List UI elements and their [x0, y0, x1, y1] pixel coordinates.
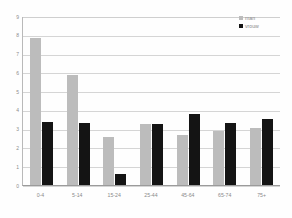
bar-group-25-44: [133, 17, 170, 185]
legend-label: vrouw: [245, 23, 259, 29]
bar-vrouw-65-74: [225, 123, 236, 185]
y-axis-tick-label: 9: [5, 15, 19, 20]
bar-chart: 0123456789 0-45-1415-2425-4445-6465-7475…: [0, 0, 292, 218]
y-axis-tick-label: 4: [5, 108, 19, 113]
x-axis-tick-label-75+: 75+: [243, 192, 280, 198]
x-axis-tick-label-5-14: 5-14: [59, 192, 96, 198]
legend-label: man: [245, 15, 255, 21]
legend-swatch-vrouw-icon: [239, 24, 243, 28]
bar-vrouw-45-64: [189, 114, 200, 185]
y-axis-tick-label: 2: [5, 146, 19, 151]
y-axis-tick-label: 7: [5, 52, 19, 57]
bar-man-65-74: [213, 131, 224, 185]
y-axis-tick-label: 1: [5, 165, 19, 170]
x-axis-tick-label-65-74: 65-74: [206, 192, 243, 198]
x-axis-tick-label-15-24: 15-24: [96, 192, 133, 198]
gridline: [23, 186, 280, 187]
bar-group-45-64: [170, 17, 207, 185]
bar-group-75+: [243, 17, 280, 185]
y-axis-tick-label: 3: [5, 127, 19, 132]
bar-vrouw-0-4: [42, 122, 53, 185]
bar-man-75+: [250, 128, 261, 185]
bar-man-0-4: [30, 38, 41, 185]
bar-man-15-24: [103, 137, 114, 185]
bar-vrouw-75+: [262, 119, 273, 185]
bar-man-25-44: [140, 124, 151, 185]
legend-swatch-man-icon: [239, 16, 243, 20]
bar-group-5-14: [60, 17, 97, 185]
bar-groups: [23, 17, 280, 185]
legend-entry-man: man: [239, 15, 259, 21]
bar-group-15-24: [96, 17, 133, 185]
x-axis-tick-label-0-4: 0-4: [22, 192, 59, 198]
bar-vrouw-5-14: [79, 123, 90, 185]
y-axis-tick-label: 5: [5, 90, 19, 95]
x-axis-labels: 0-45-1415-2425-4445-6465-7475+: [22, 192, 280, 198]
y-axis-tick-label: 6: [5, 71, 19, 76]
chart-legend: manvrouw: [239, 15, 259, 29]
x-axis-tick-label-25-44: 25-44: [133, 192, 170, 198]
bar-man-45-64: [177, 135, 188, 185]
legend-entry-vrouw: vrouw: [239, 23, 259, 29]
bar-group-65-74: [207, 17, 244, 185]
x-axis-tick-label-45-64: 45-64: [169, 192, 206, 198]
bar-vrouw-15-24: [115, 174, 126, 185]
plot-area: [22, 17, 280, 186]
y-axis-tick-label: 0: [5, 184, 19, 189]
bar-group-0-4: [23, 17, 60, 185]
y-axis-tick-label: 8: [5, 33, 19, 38]
bar-man-5-14: [67, 75, 78, 185]
bar-vrouw-25-44: [152, 124, 163, 185]
